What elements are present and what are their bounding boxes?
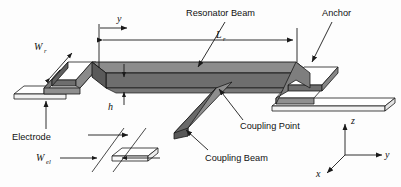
axis-label-x: x: [315, 168, 321, 179]
svg-text:r: r: [223, 35, 226, 42]
axes-triad: z y x: [315, 115, 390, 179]
label-height: h: [108, 101, 113, 112]
svg-text:W: W: [34, 41, 44, 52]
label-width-electrode: W el: [36, 152, 51, 165]
svg-text:W: W: [36, 152, 46, 163]
leader-coupling-beam: [186, 130, 208, 150]
svg-text:L: L: [215, 29, 222, 40]
dimension-length-resonator: [103, 28, 297, 62]
leader-coupling-point: [219, 89, 243, 120]
leader-anchor: [312, 22, 332, 62]
svg-text:r: r: [44, 47, 47, 54]
svg-text:el: el: [46, 158, 51, 165]
label-electrode: Electrode: [12, 132, 51, 142]
axis-label-y: y: [384, 149, 390, 160]
dimension-y-reference: [99, 24, 127, 68]
label-anchor: Anchor: [322, 8, 351, 18]
anchor-left: [44, 62, 96, 94]
axis-label-z: z: [350, 115, 355, 126]
electrode-lower-plate: [112, 148, 158, 161]
resonator-beam-diagram: Resonator Beam Anchor Electrode Coupling…: [0, 0, 401, 187]
leader-electrode: [46, 101, 128, 135]
resonator-beam: [92, 62, 310, 93]
label-y-reference: y: [116, 13, 122, 24]
label-coupling-beam: Coupling Beam: [205, 153, 268, 163]
label-resonator-beam: Resonator Beam: [186, 8, 255, 18]
figure-root: Resonator Beam Anchor Electrode Coupling…: [0, 0, 401, 187]
label-coupling-point: Coupling Point: [240, 121, 300, 131]
label-width-resonator: W r: [34, 41, 47, 54]
